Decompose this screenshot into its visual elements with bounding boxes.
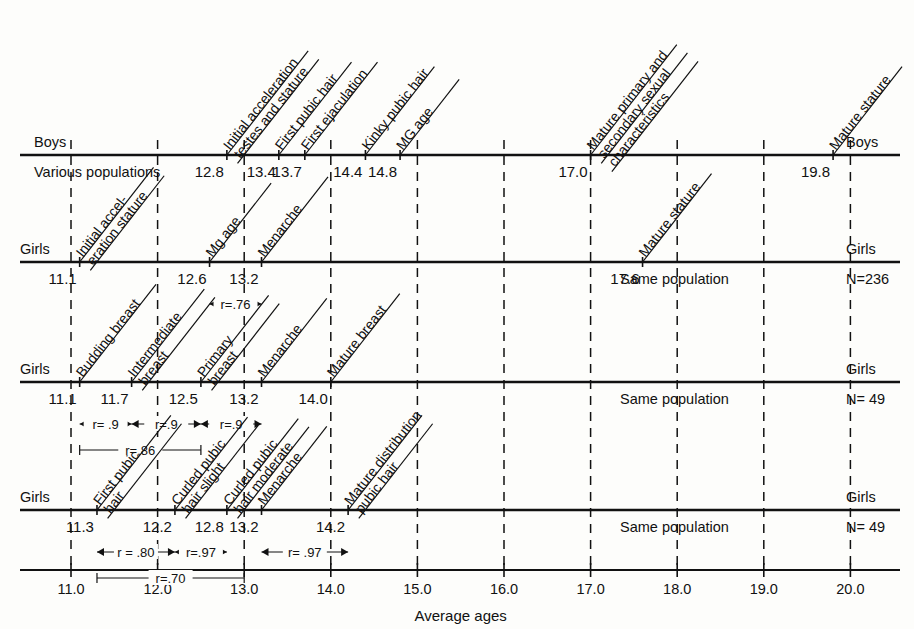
value-label-girls-breast: 11.7: [101, 390, 129, 407]
value-label-girls-hair: 14.2: [316, 518, 345, 535]
x-axis-title: Average ages: [415, 607, 507, 624]
girls49h-corr-1-label: r=.97: [186, 545, 216, 560]
girls49b-corr-2-label: r=.9: [220, 417, 243, 432]
row-label-right-girls-breast: Girls: [846, 361, 876, 377]
row-n-girls-breast: N= 49: [846, 391, 885, 407]
girls49b-corr-2-arrow-right: [255, 420, 262, 428]
puberty-timeline-chart: 11.012.013.014.015.016.017.018.019.020.0…: [0, 0, 914, 629]
value-label-girls-breast: 12.5: [169, 390, 198, 407]
x-tick-label: 14.0: [317, 581, 345, 597]
x-tick-label: 18.0: [663, 581, 691, 597]
girls49b-corr-0-label: r= .9: [92, 417, 118, 432]
value-label-girls-236: 11.1: [49, 270, 77, 287]
row-label-left-girls-236: Girls: [20, 241, 50, 257]
row-label-left-boys: Boys: [34, 134, 66, 150]
girls49h-corr-0-arrow-right: [168, 548, 175, 556]
girls49h-corr-3-label: r=.70: [156, 571, 186, 586]
girls49b-corr-1-arrow-left: [132, 420, 139, 428]
row-n-girls-236: N=236: [846, 271, 889, 287]
row-note-girls-breast: Same population: [620, 391, 729, 407]
value-label-boys: 13.7: [273, 163, 302, 180]
value-label-girls-hair: 13.2: [229, 518, 258, 535]
value-label-girls-236: 17.6: [610, 270, 639, 287]
girls49b-corr-1-arrow-right: [194, 420, 201, 428]
girls236-corr-0-label: r=.76: [221, 297, 251, 312]
value-label-girls-236: 12.6: [177, 270, 206, 287]
value-label-girls-hair: 12.8: [195, 518, 224, 535]
value-label-girls-hair: 11.3: [66, 518, 94, 535]
row-label-right-girls-hair: Girls: [846, 489, 876, 505]
row-n-girls-hair: N= 49: [846, 519, 885, 535]
value-label-boys: 12.8: [195, 163, 224, 180]
x-tick-label: 17.0: [576, 581, 604, 597]
x-tick-label: 16.0: [490, 581, 518, 597]
girls49b-corr-1-label: r=.9: [155, 417, 178, 432]
x-tick-label: 20.0: [836, 581, 864, 597]
x-tick-label: 15.0: [403, 581, 431, 597]
girls49h-corr-0-arrow-left: [97, 548, 104, 556]
value-label-boys: 13.4: [247, 163, 276, 180]
value-label-boys: 17.0: [558, 163, 587, 180]
value-label-boys: 14.4: [333, 163, 362, 180]
girls236-mature-stature-label: Mature stature: [635, 179, 703, 260]
row-label-right-girls-236: Girls: [846, 241, 876, 257]
x-tick-label: 19.0: [750, 581, 778, 597]
row-note-girls-hair: Same population: [620, 519, 729, 535]
girls49b-mature-breast-label: Mature breast: [324, 302, 390, 380]
value-label-boys: 14.8: [368, 163, 397, 180]
row-note-boys: Various populations: [34, 164, 160, 180]
girls49h-corr-2-arrow-left: [262, 548, 269, 556]
row-label-left-girls-hair: Girls: [20, 489, 50, 505]
value-label-girls-breast: 11.1: [49, 390, 77, 407]
girls49b-corr-2-arrow-left: [201, 420, 208, 428]
girls49h-corr-2-label: r= .97: [288, 545, 322, 560]
x-tick-label: 11.0: [57, 581, 84, 597]
value-label-girls-hair: 12.2: [143, 518, 172, 535]
figure-canvas: 11.012.013.014.015.016.017.018.019.020.0…: [0, 0, 914, 629]
girls49h-mature-distribution-label: Mature distribution: [341, 407, 425, 508]
girls49b-menarche-label: Menarche: [254, 321, 305, 380]
value-label-boys: 19.8: [801, 163, 830, 180]
value-label-girls-236: 13.2: [229, 270, 258, 287]
x-tick-label: 13.0: [230, 581, 258, 597]
girls236-mg-age-label: Mg age: [202, 213, 243, 260]
row-label-left-girls-breast: Girls: [20, 361, 50, 377]
girls236-menarche-label: Menarche: [254, 201, 305, 260]
girls49h-corr-2-arrow-right: [341, 548, 348, 556]
girls49h-corr-0-label: r = .80: [117, 545, 154, 560]
value-label-girls-breast: 14.0: [299, 390, 328, 407]
value-label-girls-breast: 13.2: [229, 390, 258, 407]
